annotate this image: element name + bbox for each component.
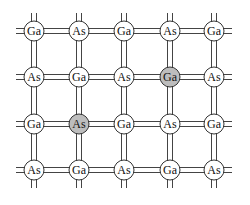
atom-label: As — [72, 24, 86, 38]
atom-label: As — [207, 163, 221, 177]
atoms: GaAsGaAsGaAsGaAsGaAsGaAsGaAsGaAsGaAsGaAs — [24, 21, 224, 180]
atom-ga: Ga — [24, 21, 44, 41]
gaas-lattice-diagram: GaAsGaAsGaAsGaAsGaAsGaAsGaAsGaAsGaAsGaAs — [0, 0, 250, 205]
atom-label: As — [27, 163, 41, 177]
atom-as: As — [204, 67, 224, 87]
atom-label: As — [207, 70, 221, 84]
atom-ga: Ga — [114, 114, 134, 134]
atom-label: Ga — [207, 117, 222, 131]
atom-label: As — [117, 163, 131, 177]
atom-label: As — [117, 70, 131, 84]
atom-label: As — [72, 117, 86, 131]
atom-label: Ga — [72, 163, 87, 177]
atom-ga-shaded: Ga — [160, 67, 180, 87]
atom-ga: Ga — [160, 160, 180, 180]
atom-ga: Ga — [69, 160, 89, 180]
atom-as: As — [114, 67, 134, 87]
atom-label: Ga — [27, 117, 42, 131]
atom-label: As — [163, 24, 177, 38]
atom-as: As — [204, 160, 224, 180]
atom-ga: Ga — [204, 114, 224, 134]
atom-ga: Ga — [204, 21, 224, 41]
atom-label: Ga — [27, 24, 42, 38]
atom-as: As — [160, 21, 180, 41]
atom-label: Ga — [72, 70, 87, 84]
atom-label: Ga — [163, 70, 178, 84]
atom-as: As — [24, 67, 44, 87]
atom-label: As — [27, 70, 41, 84]
atom-ga: Ga — [69, 67, 89, 87]
atom-label: Ga — [117, 24, 132, 38]
atom-ga: Ga — [114, 21, 134, 41]
atom-as: As — [114, 160, 134, 180]
atom-label: As — [163, 117, 177, 131]
atom-as: As — [160, 114, 180, 134]
atom-as-shaded: As — [69, 114, 89, 134]
atom-as: As — [24, 160, 44, 180]
atom-label: Ga — [163, 163, 178, 177]
atom-ga: Ga — [24, 114, 44, 134]
atom-as: As — [69, 21, 89, 41]
atom-label: Ga — [207, 24, 222, 38]
atom-label: Ga — [117, 117, 132, 131]
